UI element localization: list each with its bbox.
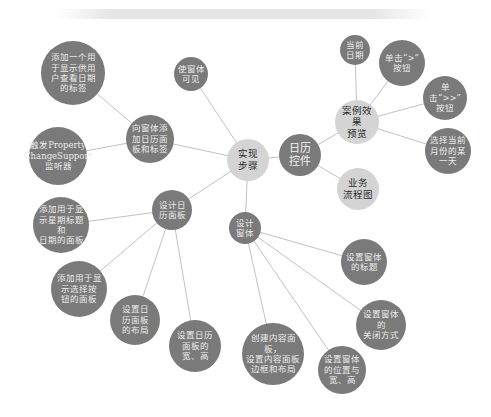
node-label: 添加用于显 示星期标题和 日期的面板 [33,204,89,245]
node-pcs-listener: 触发Property ChangeSupport 监听器 [29,127,87,185]
node-flow: 业务 流程图 [337,168,379,210]
node-cal-layout: 设置日 历面板 的布局 [110,295,160,345]
mind-map-canvas: 实现 步骤日历 控件案例效果 预览业务 流程图当前 日期单击“>” 按钮单击“>… [0,0,491,417]
node-cur-date: 当前 日期 [340,35,370,65]
node-label: 案例效果 预览 [335,105,379,140]
node-win-pos-size: 设置窗体 的位置与 宽、高 [318,346,366,394]
node-label: 向窗体添 加日历面 板和标签 [129,123,171,154]
node-label: 设置日历 面板的 宽、高 [174,330,216,361]
node-btn-gtgt: 单击“>>” 按钮 [423,76,467,120]
node-btn-gt: 单击“>” 按钮 [379,40,425,86]
node-select-btn-panel: 添加用于显 示选择按 钮的面板 [51,261,107,317]
node-win-title: 设置窗体 的标题 [341,239,387,285]
node-design-window: 设计 窗体 [229,212,261,244]
node-label: 设计 窗体 [233,218,257,239]
node-visible: 使窗体 可见 [174,57,208,91]
node-label: 当前 日期 [343,40,367,61]
node-label: 设置日 历面板 的布局 [119,304,152,335]
node-label: 使窗体 可见 [175,64,208,85]
node-pick-day: 选择当前 月份的某 一天 [425,128,471,174]
node-label: 添加一个用 于显示供用 户查看日期 的标签 [48,52,99,93]
node-content-pane: 创建内容面板， 设置内容面板 边框和布局 [242,323,304,385]
node-design-cal-panel: 设计日 历面板 [152,190,192,230]
node-label: 单击“>” 按钮 [382,53,422,74]
node-label: 设置窗体 的位置与 宽、高 [321,354,363,385]
node-label: 日历 控件 [286,142,314,169]
node-impl: 实现 步骤 [227,139,269,181]
node-label: 设置窗体的 关闭方式 [356,309,406,340]
node-add-date-label: 添加一个用 于显示供用 户查看日期 的标签 [41,41,105,105]
node-label: 选择当前 月份的某 一天 [427,135,469,166]
node-win-close: 设置窗体的 关闭方式 [356,300,406,350]
node-cal-size: 设置日历 面板的 宽、高 [169,320,221,372]
node-label: 设置窗体 的标题 [343,252,385,273]
node-calendar: 日历 控件 [279,134,321,176]
node-week-date-panel: 添加用于显 示星期标题和 日期的面板 [33,197,89,253]
node-label: 实现 步骤 [235,148,261,171]
node-preview: 案例效果 预览 [335,100,379,144]
node-label: 单击“>>” 按钮 [423,82,467,113]
node-label: 业务 流程图 [340,177,376,200]
node-label: 设计日 历面板 [156,200,189,221]
node-label: 创建内容面板， 设置内容面板 边框和布局 [242,333,304,374]
node-add-panel-label: 向窗体添 加日历面 板和标签 [126,115,174,163]
node-label: 添加用于显 示选择按 钮的面板 [54,273,105,304]
node-label: 触发Property ChangeSupport 监听器 [21,140,95,171]
